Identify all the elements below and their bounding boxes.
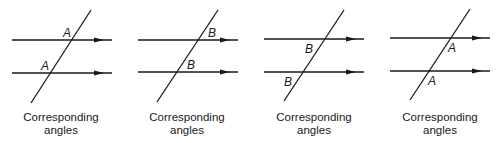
caption-line-2: angles [170, 124, 204, 136]
angle-label-top: B [208, 26, 216, 40]
arrow-head-icon [472, 69, 482, 74]
caption-line-2: angles [297, 124, 331, 136]
angle-label-bottom: A [427, 74, 436, 88]
arrow-head-icon [346, 37, 356, 42]
caption-line-1: Corresponding [402, 111, 477, 123]
angle-label-top: A [447, 41, 456, 55]
arrow-head-icon [346, 70, 356, 75]
angle-label-top: B [305, 42, 313, 56]
transversal-line [157, 10, 218, 102]
transversal-line [31, 10, 91, 103]
panel-1: A A Corresponding angles [12, 10, 112, 136]
angle-label-bottom: A [40, 59, 49, 73]
transversal-line [410, 9, 470, 100]
caption-line-1: Corresponding [276, 111, 351, 123]
panel-4: A A Corresponding angles [390, 9, 490, 136]
angle-label-top: A [62, 26, 71, 40]
arrow-head-icon [94, 38, 104, 43]
panel-2: B B Corresponding angles [138, 10, 238, 136]
caption-line-2: angles [44, 124, 78, 136]
angle-label-bottom: B [187, 58, 195, 72]
panel-3: B B Corresponding angles [264, 10, 364, 136]
angle-label-bottom: B [284, 75, 292, 89]
transversal-line [284, 10, 344, 101]
arrow-head-icon [472, 36, 482, 41]
caption-line-1: Corresponding [23, 111, 98, 123]
arrow-head-icon [94, 71, 104, 76]
arrow-head-icon [220, 70, 230, 75]
corresponding-angles-figure: A A Corresponding angles B B Correspondi… [0, 0, 503, 143]
caption-line-1: Corresponding [149, 111, 224, 123]
caption-line-2: angles [423, 124, 457, 136]
arrow-head-icon [220, 38, 230, 43]
